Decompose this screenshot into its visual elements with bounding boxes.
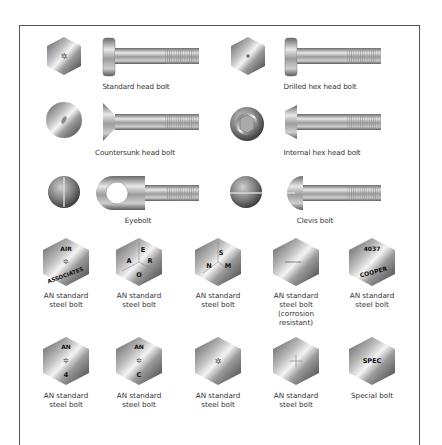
clevis-bolt-end-view <box>229 175 263 209</box>
svg-text:AN: AN <box>61 343 71 350</box>
svg-text:✲: ✲ <box>63 258 69 266</box>
svg-text:4037: 4037 <box>364 245 381 252</box>
caption-countersunk-head-bolt: Countersunk head bolt <box>75 148 195 157</box>
drilled-hex-head-bolt-end-view <box>229 36 267 76</box>
svg-text:E: E <box>141 246 145 254</box>
caption-head-marking-9: AN standard steel bolt <box>261 391 331 409</box>
countersunk-head-bolt-end-view <box>45 101 83 139</box>
eyebolt-side-view <box>101 174 201 212</box>
caption-internal-hex-head-bolt: Internal hex head bolt <box>262 148 382 157</box>
caption-clevis-bolt: Clevis bolt <box>285 216 345 225</box>
head-marking-4037-cooper: 4037 COOPER <box>347 237 397 287</box>
svg-text:A: A <box>126 257 131 265</box>
svg-text:✲: ✲ <box>63 357 69 365</box>
caption-head-marking-5: AN standard steel bolt <box>337 291 407 309</box>
caption-drilled-hex-head-bolt: Drilled hex head bolt <box>265 82 375 91</box>
svg-text:AN: AN <box>134 343 144 350</box>
head-marking-star: ✲ <box>193 336 243 386</box>
svg-text:R: R <box>147 257 152 265</box>
clevis-bolt-side-view <box>285 174 385 212</box>
head-marking-dash-corrosion-resistant <box>271 237 321 287</box>
svg-text:4: 4 <box>64 371 69 379</box>
svg-text:SPEC: SPEC <box>363 357 382 365</box>
svg-text:M: M <box>225 262 231 270</box>
svg-text:O: O <box>136 271 142 279</box>
svg-text:AIR: AIR <box>60 245 72 252</box>
svg-text:N: N <box>206 262 211 270</box>
svg-text:✲: ✲ <box>61 52 68 61</box>
caption-head-marking-1: AN standard steel bolt <box>31 291 101 309</box>
caption-eyebolt: Eyebolt <box>108 216 168 225</box>
head-marking-e-a-r-o: E A R O <box>114 237 164 287</box>
caption-head-marking-10: Special bolt <box>337 391 407 400</box>
svg-text:✲: ✲ <box>136 357 142 365</box>
head-marking-an-c: AN ✲ C <box>114 336 164 386</box>
head-marking-s-n-m: S N M <box>193 237 243 287</box>
caption-head-marking-7: AN standard steel bolt <box>104 391 174 409</box>
svg-text:✲: ✲ <box>215 357 222 366</box>
caption-head-marking-6: AN standard steel bolt <box>31 391 101 409</box>
head-marking-an-4: AN ✲ 4 <box>41 336 91 386</box>
drilled-hex-head-bolt-side-view <box>283 36 383 78</box>
head-marking-cross <box>271 336 321 386</box>
head-marking-air-associates: AIR ✲ ASSOCIATES <box>41 237 91 287</box>
standard-head-bolt-side-view <box>101 36 201 78</box>
caption-head-marking-8: AN standard steel bolt <box>183 391 253 409</box>
caption-head-marking-4: AN standard steel bolt (corrosion resist… <box>261 291 331 327</box>
countersunk-head-bolt-side-view <box>101 101 201 143</box>
standard-head-bolt-end-view: ✲ <box>45 36 83 76</box>
caption-head-marking-2: AN standard steel bolt <box>104 291 174 309</box>
caption-standard-head-bolt: Standard head bolt <box>86 82 186 91</box>
head-marking-spec: SPEC <box>347 336 397 386</box>
eyebolt-end-view <box>47 175 81 209</box>
caption-head-marking-3: AN standard steel bolt <box>183 291 253 309</box>
svg-text:S: S <box>219 249 224 257</box>
svg-text:C: C <box>137 371 142 379</box>
internal-hex-head-bolt-end-view <box>229 106 265 142</box>
internal-hex-head-bolt-side-view <box>283 101 383 143</box>
